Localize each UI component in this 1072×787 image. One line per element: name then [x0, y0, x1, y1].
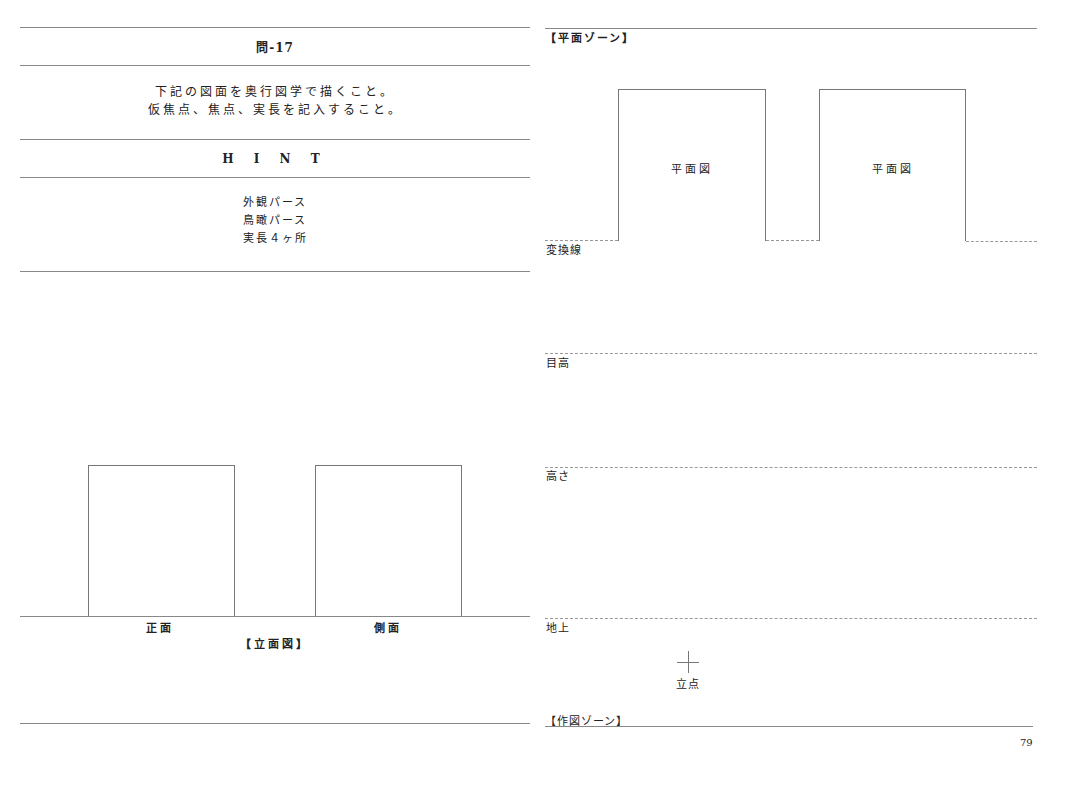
plan-zone-label: 【平面ゾーン】 [545, 29, 635, 45]
front-elevation-rect [88, 465, 235, 617]
station-point-label: 立点 [668, 675, 708, 691]
front-label: 正面 [110, 619, 210, 635]
eye-level-label: 目高 [546, 354, 570, 370]
hint-heading: H I N T [20, 152, 530, 166]
side-elevation-rect [315, 465, 462, 617]
plan-label-1: 平面図 [618, 160, 766, 176]
divider [20, 27, 530, 28]
ground-label: 地上 [546, 619, 570, 635]
divider [20, 271, 530, 272]
ground-line-dashed [545, 618, 1037, 619]
page-number: 79 [1020, 737, 1033, 748]
divider [20, 723, 530, 724]
conversion-line [966, 241, 1037, 242]
side-label: 側面 [338, 619, 438, 635]
hint-item: 実長４ヶ所 [20, 230, 530, 248]
divider [20, 139, 530, 140]
eye-level-line [545, 353, 1037, 354]
divider [20, 177, 530, 178]
drawing-zone-line [545, 726, 1033, 727]
instruction-line-1: 下記の図面を奥行図学で描くこと。 [20, 82, 530, 102]
hint-item: 外観パース [20, 194, 530, 212]
height-line [545, 467, 1037, 468]
height-label: 高さ [546, 467, 570, 483]
plan-label-2: 平面図 [819, 160, 966, 176]
instruction-line-2: 仮焦点、焦点、実長を記入すること。 [20, 100, 530, 120]
elevation-caption: 【立面図】 [20, 635, 530, 651]
conversion-line-label: 変換線 [546, 241, 582, 257]
conversion-line [766, 240, 819, 241]
ground-line [20, 616, 530, 617]
station-point-cross-icon [688, 651, 689, 673]
problem-title: 問-17 [20, 38, 530, 55]
hint-item: 鳥瞰パース [20, 212, 530, 230]
divider [20, 65, 530, 66]
